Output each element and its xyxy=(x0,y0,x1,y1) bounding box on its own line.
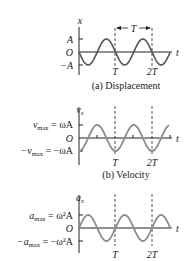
tick-2T: 2T xyxy=(147,249,159,260)
caption-displacement: (a) Displacement xyxy=(92,80,161,92)
vmax-label: vmax = ωA xyxy=(33,119,74,131)
caption-velocity: (b) Velocity xyxy=(102,169,149,181)
shm-graphs-figure: T x t A O −A T 2T (a) Displacement vx t … xyxy=(0,0,196,261)
tick-T: T xyxy=(112,249,119,260)
neg-vmax-label: −vmax = −ωA xyxy=(21,145,74,157)
t-axis-label: t xyxy=(176,133,179,144)
t-axis-label: t xyxy=(176,47,179,58)
origin-label: O xyxy=(66,47,73,58)
y-axis-label: x xyxy=(77,15,83,26)
t-axis-label: t xyxy=(176,223,179,234)
tick-2T: 2T xyxy=(147,66,159,77)
neg-amax-label: −amax = −ω²A xyxy=(17,236,74,248)
panel-velocity: vx t vmax = ωA O −vmax = −ωA T 2T (b) Ve… xyxy=(21,104,179,181)
amplitude-label: A xyxy=(66,34,74,45)
origin-label: O xyxy=(66,223,73,234)
tick-T: T xyxy=(112,66,119,77)
neg-amplitude-label: −A xyxy=(60,60,74,71)
y-axis-label: vx xyxy=(76,104,83,116)
origin-label: O xyxy=(66,133,73,144)
tick-T: T xyxy=(112,157,119,168)
tick-2T: 2T xyxy=(147,157,159,168)
panel-displacement: T x t A O −A T 2T (a) Displacement xyxy=(60,15,179,92)
y-axis-label: ax xyxy=(76,192,84,204)
amax-label: amax = ω²A xyxy=(29,210,73,222)
panel-acceleration: ax t amax = ω²A O −amax = −ω²A T 2T xyxy=(17,192,179,260)
